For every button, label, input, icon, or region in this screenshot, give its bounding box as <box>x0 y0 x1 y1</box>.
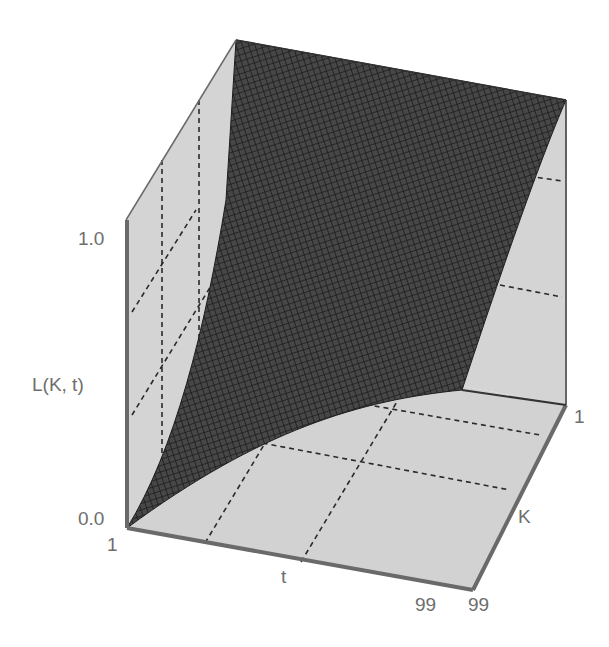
k-axis-label: K <box>518 506 531 528</box>
t-tick-min: 1 <box>107 534 118 556</box>
k-tick-min: 1 <box>574 406 585 428</box>
k-tick-max: 99 <box>468 594 489 616</box>
z-tick-top: 1.0 <box>78 228 104 250</box>
z-axis-label: L(K, t) <box>32 374 84 396</box>
t-axis-label: t <box>281 566 286 588</box>
t-tick-max: 99 <box>415 594 436 616</box>
surface-plot <box>0 0 609 647</box>
z-tick-bottom: 0.0 <box>78 508 104 530</box>
